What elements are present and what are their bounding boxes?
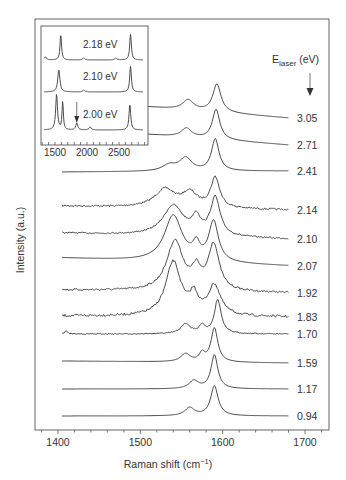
series-label: 1.17: [297, 383, 318, 395]
down-arrow-icon: [307, 73, 314, 96]
series-label: 1.83: [297, 311, 318, 323]
spectrum-curve: [62, 300, 288, 335]
spectrum-curve: [62, 260, 288, 318]
series-label: 1.59: [297, 357, 318, 369]
series-label: 2.14: [297, 204, 318, 216]
inset-tick-label: 1500: [44, 147, 67, 158]
series-labels: 3.052.712.412.142.102.071.921.831.701.59…: [297, 112, 318, 422]
inset-series-label: 2.18 eV: [83, 39, 118, 50]
inset-x-tick-labels: 150020002500: [44, 147, 131, 158]
spectrum-curve: [62, 386, 288, 416]
inset-tick-label: 2000: [76, 147, 99, 158]
x-axis-title: Raman shift (cm−1): [124, 457, 213, 470]
inset-tick-label: 2500: [108, 147, 131, 158]
spectrum-curve: [62, 239, 288, 293]
series-label: 2.41: [297, 165, 318, 177]
series-label: 2.10: [297, 233, 318, 245]
y-axis-title: Intensity (a.u.): [14, 207, 26, 274]
series-label: 0.94: [297, 410, 318, 422]
x-tick-label: 1400: [46, 436, 70, 448]
raman-spectra-chart: 1400150016001700 3.052.712.412.142.102.0…: [0, 0, 346, 480]
inset-chart: 2.18 eV2.10 eV2.00 eV 150020002500: [41, 26, 148, 158]
x-axis-tick-labels: 1400150016001700: [46, 436, 317, 448]
series-label: 1.70: [297, 328, 318, 340]
series-label: 1.92: [297, 287, 318, 299]
series-label: 2.71: [297, 139, 318, 151]
x-tick-label: 1500: [129, 436, 153, 448]
x-tick-label: 1600: [211, 436, 235, 448]
x-tick-label: 1700: [293, 436, 317, 448]
series-label: 2.07: [297, 260, 318, 272]
legend-title: Elaser (eV): [272, 53, 319, 68]
spectrum-curve: [62, 215, 288, 265]
series-label: 3.05: [297, 112, 318, 124]
inset-series-label: 2.10 eV: [83, 71, 118, 82]
x-axis-ticks: [42, 430, 322, 434]
inset-series-label: 2.00 eV: [83, 109, 118, 120]
